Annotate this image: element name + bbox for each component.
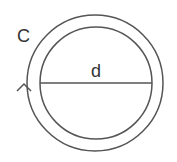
direction-arrow-icon — [17, 84, 31, 91]
circumference-label: C — [17, 26, 30, 46]
circle-diagram: C d — [0, 0, 177, 162]
diameter-label: d — [91, 61, 101, 81]
